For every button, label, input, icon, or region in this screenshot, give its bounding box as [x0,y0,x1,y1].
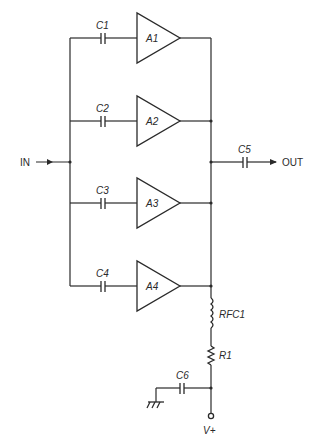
capacitor-c1 [101,33,105,44]
c3-label: C3 [96,185,109,196]
ground-icon [147,388,164,408]
amplifier-a1: A1 [137,13,180,63]
resistor-r1: R1 [208,346,232,365]
c5-label: C5 [238,144,251,155]
supply-label: V+ [203,425,216,436]
a2-label: A2 [145,116,159,127]
a1-label: A1 [145,33,158,44]
branch-a1: C1 A1 [70,13,211,63]
c1-label: C1 [96,20,109,31]
c2-label: C2 [96,103,109,114]
inductor-rfc1: RFC1 [211,298,245,328]
output-arrow-icon [270,159,277,165]
amplifier-a4: A4 [137,261,180,311]
branch-a3: C3 A3 [70,178,213,228]
capacitor-c3 [101,198,105,209]
amplifier-a3: A3 [137,178,180,228]
capacitor-c4 [101,281,105,292]
branch-a4: C4 A4 [70,261,213,311]
capacitor-c2 [101,116,105,127]
a3-label: A3 [145,198,159,209]
rfc1-label: RFC1 [219,309,245,320]
input-arrow-icon [47,159,53,165]
circuit-schematic: IN C1 A1 C2 A2 [0,0,316,446]
branch-a2: C2 A2 [70,96,213,146]
c4-label: C4 [96,268,109,279]
r1-label: R1 [219,350,232,361]
supply-terminal: V+ [203,413,216,436]
amplifier-a2: A2 [137,96,180,146]
output-label: OUT [282,157,303,168]
a4-label: A4 [145,281,159,292]
input-label: IN [20,157,30,168]
capacitor-c6: C6 [156,370,211,394]
input-terminal: IN [20,157,72,168]
c6-label: C6 [176,370,189,381]
capacitor-c5 [243,157,247,168]
output-terminal: C5 OUT [209,144,303,168]
